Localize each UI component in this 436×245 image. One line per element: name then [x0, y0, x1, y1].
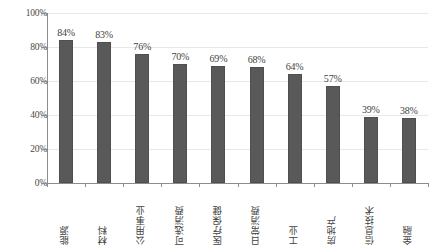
- x-axis-label: 医疗保健: [214, 189, 224, 245]
- x-axis-tick-mark: [314, 183, 315, 187]
- bar-value-label: 68%: [248, 54, 266, 65]
- x-axis-label: 公用事业: [137, 189, 147, 245]
- x-axis-tick-mark: [161, 183, 162, 187]
- x-axis-tick-mark: [238, 183, 239, 187]
- bar: [250, 67, 264, 183]
- bar-slot: 76%: [123, 13, 161, 183]
- x-axis-label: 金融: [404, 189, 414, 245]
- x-axis-label-slot: 工业: [276, 188, 314, 245]
- x-axis-label-wrap: 可选消费: [161, 189, 199, 245]
- bar-value-label: 70%: [171, 51, 189, 62]
- x-axis-label-slot: 材料: [85, 188, 123, 245]
- x-axis-tick-mark: [199, 183, 200, 187]
- bar: [135, 54, 149, 183]
- x-axis-label-wrap: 材料: [85, 189, 123, 245]
- x-axis-tick-mark: [352, 183, 353, 187]
- x-axis-label-slot: 日常消费: [237, 188, 275, 245]
- x-axis-label-wrap: 信息技术: [352, 189, 390, 245]
- bar: [97, 42, 111, 183]
- bar-value-label: 39%: [362, 104, 380, 115]
- x-axis-tick-mark: [47, 183, 48, 187]
- x-axis-labels: 能源材料公用事业可选消费医疗保健日常消费工业房地产信息技术金融: [47, 188, 428, 245]
- bar-slot: 57%: [314, 13, 352, 183]
- bar-value-label: 69%: [210, 53, 228, 64]
- bar-value-label: 64%: [286, 61, 304, 72]
- bar-slot: 83%: [85, 13, 123, 183]
- x-axis-tick-mark: [123, 183, 124, 187]
- x-axis-label-slot: 能源: [47, 188, 85, 245]
- x-axis-label: 工业: [290, 189, 300, 245]
- bar: [364, 117, 378, 183]
- x-axis-tick-mark: [390, 183, 391, 187]
- x-axis-label: 日常消费: [252, 189, 262, 245]
- bar-value-label: 84%: [57, 27, 75, 38]
- bar-chart: 0%20%40%60%80%100% 84%83%76%70%69%68%64%…: [0, 0, 436, 245]
- bar-slot: 68%: [237, 13, 275, 183]
- bar-slot: 69%: [199, 13, 237, 183]
- x-axis-label-slot: 可选消费: [161, 188, 199, 245]
- x-axis-label-wrap: 公用事业: [123, 189, 161, 245]
- x-axis-label: 材料: [99, 189, 109, 245]
- x-axis-label: 信息技术: [366, 189, 376, 245]
- bar-slot: 64%: [276, 13, 314, 183]
- x-axis-label-wrap: 能源: [47, 189, 85, 245]
- x-axis-label-wrap: 医疗保健: [199, 189, 237, 245]
- x-axis-label-slot: 公用事业: [123, 188, 161, 245]
- bar-value-label: 76%: [133, 41, 151, 52]
- x-axis-label-wrap: 金融: [390, 189, 428, 245]
- x-axis-label-wrap: 房地产: [314, 189, 352, 245]
- x-axis-label: 房地产: [328, 189, 338, 245]
- x-axis-tick-mark: [85, 183, 86, 187]
- bar-value-label: 38%: [400, 105, 418, 116]
- y-axis-ticks: 0%20%40%60%80%100%: [0, 0, 47, 184]
- bar-value-label: 83%: [95, 29, 113, 40]
- bar: [173, 64, 187, 183]
- x-axis-label-slot: 信息技术: [352, 188, 390, 245]
- bar: [59, 40, 73, 183]
- x-axis-label-slot: 医疗保健: [199, 188, 237, 245]
- bar-slot: 39%: [352, 13, 390, 183]
- x-axis-label-wrap: 日常消费: [237, 189, 275, 245]
- bar: [288, 74, 302, 183]
- bar: [402, 118, 416, 183]
- bar: [211, 66, 225, 183]
- x-axis-label-slot: 房地产: [314, 188, 352, 245]
- bar-series: 84%83%76%70%69%68%64%57%39%38%: [47, 13, 428, 183]
- bar-value-label: 57%: [324, 73, 342, 84]
- x-axis-label: 可选消费: [176, 189, 186, 245]
- bar: [326, 86, 340, 183]
- x-axis-label-slot: 金融: [390, 188, 428, 245]
- x-axis-label: 能源: [61, 189, 71, 245]
- x-axis-tick-mark: [276, 183, 277, 187]
- bar-slot: 70%: [161, 13, 199, 183]
- bar-slot: 84%: [47, 13, 85, 183]
- x-axis-label-wrap: 工业: [276, 189, 314, 245]
- x-axis-tick-mark: [428, 183, 429, 187]
- bar-slot: 38%: [390, 13, 428, 183]
